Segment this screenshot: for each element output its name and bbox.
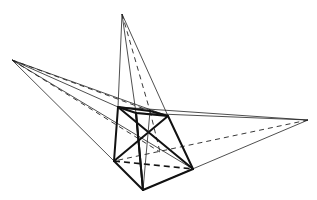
right-apex-rays (114, 107, 308, 190)
frustum-edges (114, 107, 193, 190)
frustum-perspective-diagram (0, 0, 317, 200)
top-apex-rays (118, 14, 168, 152)
diagram-canvas (0, 0, 317, 200)
